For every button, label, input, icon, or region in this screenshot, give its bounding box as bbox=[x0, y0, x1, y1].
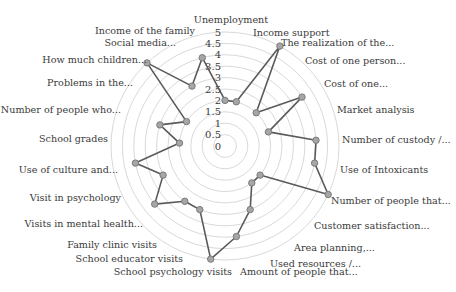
data-point-marker bbox=[176, 140, 182, 146]
data-point-marker bbox=[253, 110, 259, 116]
category-label: Income of the family bbox=[95, 25, 196, 36]
data-point-marker bbox=[247, 206, 253, 212]
category-label: Number of people that... bbox=[331, 195, 451, 206]
data-point-marker bbox=[160, 172, 166, 178]
category-label: Number of custody /... bbox=[342, 134, 451, 145]
data-point-marker bbox=[197, 206, 203, 212]
category-label: Use of culture and... bbox=[19, 164, 118, 175]
data-point-marker bbox=[199, 55, 205, 61]
data-point-marker bbox=[183, 118, 189, 124]
grid-ring bbox=[122, 43, 327, 248]
category-label: Area planning,... bbox=[293, 242, 375, 253]
category-label: Unemployment bbox=[194, 14, 268, 25]
data-point-marker bbox=[233, 233, 239, 239]
category-label: School educator visits bbox=[76, 253, 183, 264]
axis-tick-label: 0 bbox=[215, 141, 221, 152]
category-label: Social media... bbox=[105, 37, 176, 48]
category-label: The realization of the... bbox=[281, 37, 394, 48]
data-point-marker bbox=[182, 198, 188, 204]
category-label: School grades bbox=[39, 133, 108, 144]
data-point-marker bbox=[222, 97, 228, 103]
category-label: Use of Intoxicants bbox=[340, 164, 428, 175]
category-label: Family clinic visits bbox=[67, 239, 157, 250]
category-label: Cost of one person... bbox=[305, 55, 405, 66]
category-label: Amount of people that... bbox=[239, 266, 358, 277]
category-label: Number of people who... bbox=[1, 104, 121, 115]
axis-tick-label: 4 bbox=[215, 49, 221, 60]
category-label: Visits in mental health... bbox=[24, 218, 143, 229]
axis-tick-label: 5 bbox=[215, 27, 221, 38]
grid-rings bbox=[111, 32, 339, 260]
data-point-marker bbox=[257, 172, 263, 178]
data-point-marker bbox=[208, 256, 214, 262]
data-point-marker bbox=[152, 201, 158, 207]
data-point-marker bbox=[311, 160, 317, 166]
data-point-marker bbox=[132, 160, 138, 166]
series-markers bbox=[132, 43, 331, 262]
grid-ring bbox=[134, 55, 316, 237]
axis-tick-label: 1 bbox=[215, 118, 221, 129]
category-label: Problems in the... bbox=[47, 77, 133, 88]
axis-tick-label: 0.5 bbox=[205, 129, 221, 140]
data-point-marker bbox=[157, 122, 163, 128]
data-point-marker bbox=[313, 137, 319, 143]
axis-tick-label: 1.5 bbox=[205, 106, 221, 117]
data-point-marker bbox=[189, 83, 195, 89]
radar-chart: 00.511.522.533.544.55 UnemploymentIncome… bbox=[0, 0, 456, 292]
axis-tick-label: 2 bbox=[215, 95, 221, 106]
category-label: Cost of one... bbox=[324, 78, 388, 89]
grid-ring bbox=[168, 89, 282, 203]
category-label: School psychology visits bbox=[114, 266, 232, 277]
category-label: Visit in psychology bbox=[29, 192, 122, 203]
axis-tick-label: 4.5 bbox=[205, 38, 221, 49]
data-point-marker bbox=[299, 94, 305, 100]
data-point-marker bbox=[233, 99, 239, 105]
data-point-marker bbox=[249, 180, 255, 186]
grid-ring bbox=[191, 112, 259, 180]
category-label: Customer satisfaction... bbox=[314, 220, 430, 231]
grid-ring bbox=[145, 66, 305, 226]
category-label: How much children... bbox=[42, 54, 147, 65]
category-label: Market analysis bbox=[337, 104, 415, 115]
data-series bbox=[132, 43, 331, 262]
data-point-marker bbox=[265, 129, 271, 135]
